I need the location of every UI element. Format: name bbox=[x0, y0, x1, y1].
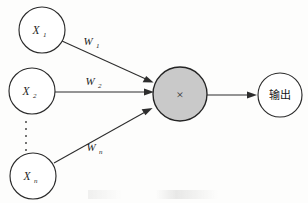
weight-label-w2-subscript: 2 bbox=[98, 82, 102, 90]
output-node-label: 输出 bbox=[269, 88, 291, 102]
multiplication-cross-icon: × bbox=[176, 87, 183, 102]
input-node-x1-label: X bbox=[31, 24, 40, 36]
input-node-group: X 1 X 2 X n bbox=[9, 7, 65, 199]
ellipsis-dot bbox=[25, 128, 27, 130]
ellipsis-dot bbox=[25, 149, 27, 151]
caption-remnant bbox=[88, 190, 218, 199]
input-node-x1-subscript: 1 bbox=[43, 31, 47, 39]
input-node-xn-label: X bbox=[22, 170, 31, 182]
vertical-ellipsis bbox=[25, 121, 27, 151]
arrow-head-output bbox=[247, 91, 257, 98]
neuron-diagram-figure: X 1 X 2 X n W 1 W 2 W n bbox=[0, 0, 308, 203]
edge-x1-to-sum bbox=[62, 41, 148, 80]
weight-label-w1: W bbox=[83, 35, 93, 47]
arrow-head-x1 bbox=[143, 76, 154, 83]
weight-label-wn-subscript: n bbox=[99, 148, 103, 156]
weight-label-w1-subscript: 1 bbox=[96, 42, 100, 50]
input-node-xn[interactable] bbox=[10, 153, 56, 199]
input-node-x2-subscript: 2 bbox=[33, 92, 37, 100]
input-node-x2-label: X bbox=[21, 85, 30, 97]
output-node-group: 输出 bbox=[258, 73, 302, 117]
ellipsis-dot bbox=[25, 121, 27, 123]
weight-label-group: W 1 W 2 W n bbox=[83, 35, 103, 156]
summation-node-group: × bbox=[153, 67, 207, 121]
input-node-xn-subscript: n bbox=[34, 177, 38, 185]
weight-label-wn: W bbox=[86, 141, 96, 153]
arrow-head-xn bbox=[142, 108, 153, 115]
weight-label-w2: W bbox=[85, 75, 95, 87]
ellipsis-dot bbox=[25, 142, 27, 144]
input-node-x2[interactable] bbox=[9, 68, 55, 114]
diagram-canvas: X 1 X 2 X n W 1 W 2 W n bbox=[0, 0, 308, 203]
input-node-x1[interactable] bbox=[19, 7, 65, 53]
ellipsis-dot bbox=[25, 135, 27, 137]
